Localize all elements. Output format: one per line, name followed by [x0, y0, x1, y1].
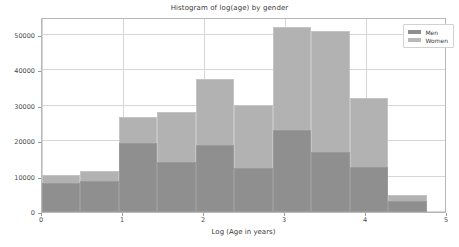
y-tick-label: 50000	[0, 32, 35, 40]
chart-title: Histogram of log(age) by gender	[0, 4, 459, 12]
x-tick-label: 5	[436, 216, 456, 224]
histogram-figure: Histogram of log(age) by gender 01000020…	[0, 0, 459, 247]
legend-swatch-icon	[408, 38, 421, 42]
y-tick-label: 40000	[0, 67, 35, 75]
bar-men-3	[157, 162, 195, 212]
legend-label: Men	[425, 29, 438, 36]
x-tick-label: 1	[112, 216, 132, 224]
bar-men-7	[311, 152, 349, 212]
x-tick-mark	[284, 213, 285, 216]
y-tick-label: 30000	[0, 103, 35, 111]
bar-men-9	[388, 201, 426, 212]
legend-item-men[interactable]: Men	[408, 28, 448, 36]
legend-swatch-icon	[408, 30, 421, 34]
y-tick-mark	[38, 71, 41, 72]
legend-item-women[interactable]: Women	[408, 36, 448, 44]
x-tick-label: 4	[355, 216, 375, 224]
y-tick-label: 20000	[0, 138, 35, 146]
x-tick-mark	[41, 213, 42, 216]
bar-men-8	[350, 167, 388, 212]
chart-legend: MenWomen	[403, 24, 454, 48]
gridline-horizontal	[42, 69, 445, 70]
bar-men-2	[119, 143, 157, 212]
x-tick-label: 0	[31, 216, 51, 224]
x-tick-mark	[446, 213, 447, 216]
bar-men-1	[80, 181, 118, 212]
plot-area	[41, 18, 446, 213]
legend-label: Women	[425, 37, 448, 44]
bar-men-0	[42, 183, 80, 212]
bar-men-5	[234, 168, 272, 212]
x-tick-mark	[122, 213, 123, 216]
y-tick-mark	[38, 142, 41, 143]
y-tick-label: 10000	[0, 174, 35, 182]
gridline-horizontal	[42, 34, 445, 35]
y-tick-label: 0	[0, 209, 35, 217]
x-tick-label: 3	[274, 216, 294, 224]
bar-men-4	[196, 145, 234, 212]
y-tick-mark	[38, 107, 41, 108]
y-tick-mark	[38, 178, 41, 179]
y-tick-mark	[38, 36, 41, 37]
x-tick-mark	[203, 213, 204, 216]
x-tick-label: 2	[193, 216, 213, 224]
x-tick-mark	[365, 213, 366, 216]
bar-men-6	[273, 130, 311, 212]
x-axis-label: Log (Age in years)	[41, 228, 446, 236]
